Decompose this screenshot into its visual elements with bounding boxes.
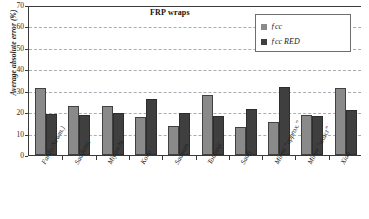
bar-fcc[interactable]: [335, 88, 346, 155]
bar-fcc-red[interactable]: [246, 109, 257, 155]
y-tick-label: 30: [17, 88, 25, 96]
chart-container: Average absolute error (%) 70 60 50 40 3…: [0, 0, 369, 219]
bar-fcc[interactable]: [268, 122, 279, 155]
y-tick-label: 50: [17, 45, 25, 53]
y-tick-label: 20: [17, 109, 25, 117]
bar-fcc[interactable]: [301, 115, 312, 156]
legend-swatch-dark: [261, 39, 267, 45]
legend-item-fcc[interactable]: ƒcc: [261, 19, 345, 34]
legend-item-fcc-red[interactable]: ƒcc RED: [261, 34, 345, 49]
chart-title: FRP wraps: [150, 8, 190, 17]
legend-label-fcc-red: ƒcc RED: [271, 37, 300, 46]
bar-fcc[interactable]: [202, 95, 213, 155]
bar-fcc[interactable]: [68, 106, 79, 155]
y-tick-label: 0: [20, 152, 24, 160]
legend-label-fcc: ƒcc: [271, 22, 282, 31]
bar-group: [335, 88, 357, 155]
bar-fcc-red[interactable]: [346, 110, 357, 155]
chart-legend: ƒcc ƒcc RED: [255, 14, 351, 52]
y-tick-label: 70: [17, 2, 25, 10]
bar-group: [235, 109, 257, 155]
legend-swatch-light: [261, 24, 267, 30]
y-tick-label: 40: [17, 67, 25, 75]
bar-fcc[interactable]: [102, 106, 113, 155]
y-tick-label: 60: [17, 24, 25, 32]
y-tick-label: 10: [17, 131, 25, 139]
x-axis-category-labels: Fardis/Newm.)Saadatm.MiyauchiKonoSaamanT…: [0, 160, 369, 219]
y-tick-mark: [25, 156, 28, 157]
bar-fcc-red[interactable]: [146, 99, 157, 155]
bar-fcc[interactable]: [35, 88, 46, 155]
y-axis-tick-labels: 70 60 50 40 30 20 10 0: [0, 0, 28, 162]
bar-group: [135, 99, 157, 155]
